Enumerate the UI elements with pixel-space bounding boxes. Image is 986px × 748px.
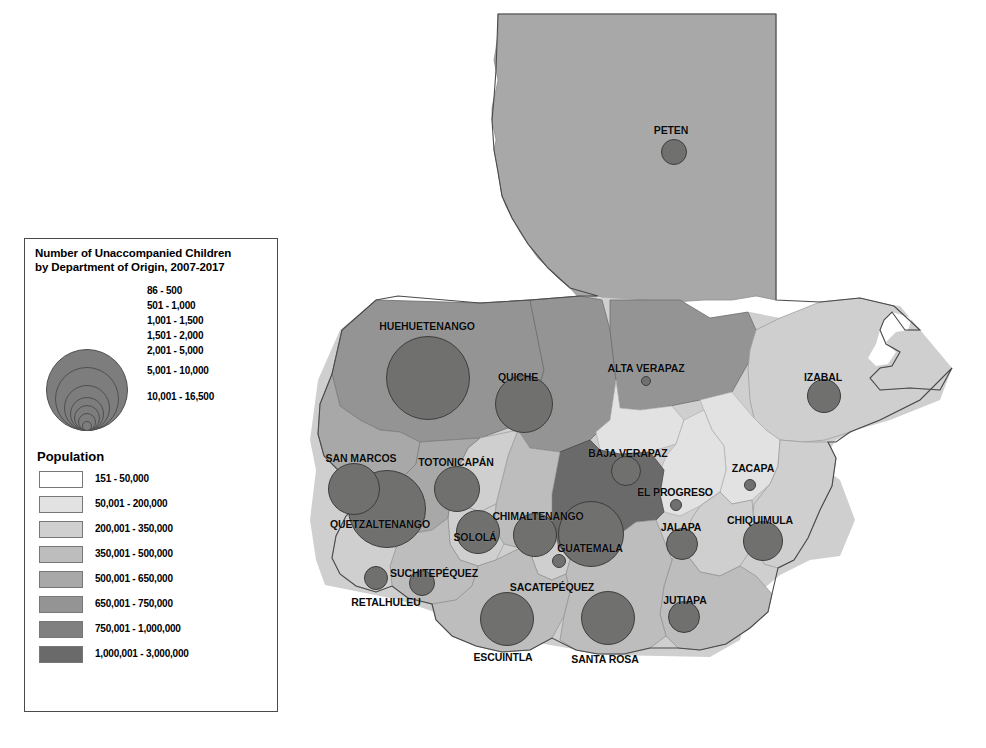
legend-bubble-label-2: 501 - 1,000 bbox=[147, 300, 195, 311]
department-label-guatemala: GUATEMALA bbox=[557, 542, 622, 554]
guatemala-map: PETENHUEHUETENANGOQUICHEALTA VERAPAZIZAB… bbox=[280, 0, 986, 748]
population-legend-swatch bbox=[39, 521, 83, 538]
population-legend-label: 650,001 - 750,000 bbox=[95, 598, 173, 609]
population-legend-label: 350,001 - 500,000 bbox=[95, 548, 173, 559]
population-legend-label: 500,001 - 650,000 bbox=[95, 573, 173, 584]
department-bubble-retalhuleu[interactable] bbox=[364, 566, 388, 590]
department-label-sacatep-quez: SACATEPÉQUEZ bbox=[510, 581, 594, 593]
department-bubble-peten[interactable] bbox=[661, 139, 687, 165]
department-bubble-san-marcos[interactable] bbox=[328, 463, 380, 515]
department-label-quetzaltenango: QUETZALTENANGO bbox=[330, 518, 430, 530]
department-bubble-quiche[interactable] bbox=[495, 375, 553, 433]
department-label-chiquimula: CHIQUIMULA bbox=[727, 514, 793, 526]
region-peten bbox=[492, 14, 776, 302]
department-label-chimaltenango: CHIMALTENANGO bbox=[492, 510, 583, 522]
department-label-baja-verapaz: BAJA VERAPAZ bbox=[588, 447, 667, 459]
bubble-size-legend: 86 - 500501 - 1,0001,001 - 1,5001,501 - … bbox=[25, 283, 279, 433]
department-bubble-huehuetenango[interactable] bbox=[386, 336, 470, 420]
population-legend-label: 750,001 - 1,000,000 bbox=[95, 623, 181, 634]
department-label-solol-: SOLOLÁ bbox=[453, 531, 496, 543]
population-legend-swatch bbox=[39, 621, 83, 638]
legend-bubble-label-6: 5,001 - 10,000 bbox=[147, 365, 209, 376]
legend-bubble-label-4: 1,501 - 2,000 bbox=[147, 330, 203, 341]
department-bubble-zacapa[interactable] bbox=[744, 479, 756, 491]
department-label-totonicap-n: TOTONICAPÁN bbox=[418, 456, 494, 468]
department-bubble-alta-verapaz[interactable] bbox=[641, 376, 651, 386]
population-legend-label: 200,001 - 350,000 bbox=[95, 523, 173, 534]
department-label-jutiapa: JUTIAPA bbox=[663, 594, 706, 606]
department-bubble-totonicap-n[interactable] bbox=[434, 466, 480, 512]
department-label-quiche: QUICHE bbox=[498, 371, 538, 383]
population-legend-swatch bbox=[39, 496, 83, 513]
department-label-izabal: IZABAL bbox=[804, 371, 842, 383]
department-label-santa-rosa: SANTA ROSA bbox=[571, 653, 638, 665]
bubble-size-stack bbox=[25, 283, 143, 433]
department-label-huehuetenango: HUEHUETENANGO bbox=[379, 320, 475, 332]
population-legend-label: 151 - 50,000 bbox=[95, 473, 149, 484]
department-label-escuintla: ESCUINTLA bbox=[473, 651, 532, 663]
bubble-legend-title-line1: Number of Unaccompanied Children bbox=[35, 246, 275, 260]
department-bubble-izabal[interactable] bbox=[807, 379, 841, 413]
department-bubble-el-progreso[interactable] bbox=[670, 499, 682, 511]
bubble-legend-title-line2: by Department of Origin, 2007-2017 bbox=[35, 260, 275, 274]
legend-bubble-label-7: 10,001 - 16,500 bbox=[147, 391, 214, 402]
department-label-el-progreso: EL PROGRESO bbox=[637, 486, 713, 498]
department-bubble-sacatep-quez[interactable] bbox=[552, 554, 566, 568]
legend-bubble-label-3: 1,001 - 1,500 bbox=[147, 315, 203, 326]
population-legend-swatch bbox=[39, 571, 83, 588]
legend-bubble-1 bbox=[82, 421, 92, 431]
department-label-san-marcos: SAN MARCOS bbox=[326, 452, 397, 464]
department-label-peten: PETEN bbox=[654, 124, 689, 136]
department-bubble-santa-rosa[interactable] bbox=[581, 591, 635, 645]
department-label-suchitep-quez: SUCHITEPÉQUEZ bbox=[390, 567, 478, 579]
legend-bubble-label-5: 2,001 - 5,000 bbox=[147, 345, 203, 356]
legend-bubble-label-1: 86 - 500 bbox=[147, 285, 182, 296]
population-legend-swatch bbox=[39, 646, 83, 663]
population-legend-label: 50,001 - 200,000 bbox=[95, 498, 167, 509]
map-legend-panel: Number of Unaccompanied Children by Depa… bbox=[24, 238, 278, 712]
department-label-alta-verapaz: ALTA VERAPAZ bbox=[607, 362, 684, 374]
population-legend-swatch bbox=[39, 546, 83, 563]
department-label-zacapa: ZACAPA bbox=[732, 462, 774, 474]
population-legend-label: 1,000,001 - 3,000,000 bbox=[95, 648, 189, 659]
department-label-jalapa: JALAPA bbox=[661, 521, 702, 533]
department-bubble-escuintla[interactable] bbox=[480, 592, 534, 646]
population-legend-swatch bbox=[39, 596, 83, 613]
population-legend-swatch bbox=[39, 471, 83, 488]
department-bubble-baja-verapaz[interactable] bbox=[611, 456, 641, 486]
population-legend-title: Population bbox=[37, 449, 104, 464]
bubble-legend-title: Number of Unaccompanied Children by Depa… bbox=[35, 246, 275, 274]
department-bubble-chiquimula[interactable] bbox=[743, 521, 783, 561]
department-label-retalhuleu: RETALHULEU bbox=[351, 596, 420, 608]
